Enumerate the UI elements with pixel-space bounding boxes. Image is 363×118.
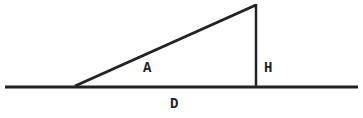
distance-label: D <box>170 96 178 112</box>
hypotenuse <box>75 5 256 86</box>
height-label: H <box>264 60 272 76</box>
angle-label: A <box>143 60 152 76</box>
triangle-diagram: A H D <box>0 0 363 118</box>
